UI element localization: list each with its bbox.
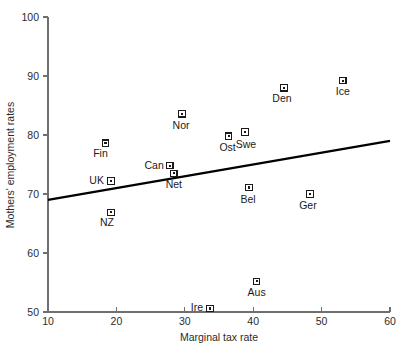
data-point: Ger <box>299 191 317 211</box>
scatter-chart: 5060708090100 102030405060 FinUKNZCanNet… <box>0 0 407 349</box>
data-point: Fin <box>93 140 108 159</box>
data-point: Nor <box>173 111 190 131</box>
y-tick-label: 100 <box>21 11 39 23</box>
data-point: Net <box>166 170 182 190</box>
y-axis-ticks: 5060708090100 <box>21 11 48 318</box>
x-tick-label: 60 <box>384 315 396 327</box>
x-tick-label: 30 <box>179 315 191 327</box>
point-marker-core <box>169 165 171 167</box>
axes <box>48 17 390 312</box>
point-label: Ire <box>191 301 203 313</box>
point-label: Swe <box>236 138 257 150</box>
data-point: Swe <box>236 129 257 150</box>
x-tick-label: 40 <box>247 315 259 327</box>
point-label: Ger <box>299 199 317 211</box>
point-label: Net <box>166 178 182 190</box>
point-marker-core <box>209 307 211 309</box>
y-tick-label: 70 <box>27 188 39 200</box>
data-point: Ire <box>191 301 213 313</box>
point-marker-core <box>104 142 106 144</box>
data-point: Bel <box>241 184 256 204</box>
point-label: Fin <box>93 147 108 159</box>
x-axis-ticks: 102030405060 <box>42 307 396 327</box>
point-label: UK <box>89 174 104 186</box>
point-label: Ice <box>336 85 350 97</box>
point-label: Nor <box>173 119 190 131</box>
point-marker-core <box>110 211 112 213</box>
x-tick-label: 50 <box>316 315 328 327</box>
data-point: UK <box>89 174 114 186</box>
y-tick-label: 80 <box>27 129 39 141</box>
point-marker-core <box>248 186 250 188</box>
point-marker-core <box>244 131 246 133</box>
y-tick-label: 60 <box>27 247 39 259</box>
data-point: Can <box>144 159 172 171</box>
y-axis-title: Mothers' employment rates <box>4 102 16 228</box>
point-marker-core <box>181 113 183 115</box>
data-point: Ost <box>219 133 235 153</box>
data-point: NZ <box>100 209 115 228</box>
point-label: Can <box>144 159 163 171</box>
point-label: Ost <box>219 141 235 153</box>
point-marker-core <box>173 172 175 174</box>
point-label: Den <box>272 92 291 104</box>
point-marker-core <box>110 180 112 182</box>
caption-strip <box>0 337 407 349</box>
data-points: FinUKNZCanNetNorOstSweBelDenGerIceAusIre <box>89 78 350 314</box>
point-marker-core <box>256 280 258 282</box>
data-point: Den <box>272 85 291 104</box>
y-tick-label: 90 <box>27 70 39 82</box>
data-point: Ice <box>336 78 350 97</box>
point-marker-core <box>228 135 230 137</box>
x-tick-label: 10 <box>42 315 54 327</box>
point-marker-core <box>309 193 311 195</box>
point-label: Aus <box>248 286 266 298</box>
y-tick-label: 50 <box>27 306 39 318</box>
data-point: Aus <box>248 278 266 298</box>
point-label: Bel <box>241 193 256 205</box>
x-tick-label: 20 <box>111 315 123 327</box>
point-marker-core <box>342 80 344 82</box>
plot-canvas: 5060708090100 102030405060 FinUKNZCanNet… <box>0 0 407 349</box>
point-marker-core <box>283 87 285 89</box>
point-label: NZ <box>100 216 115 228</box>
